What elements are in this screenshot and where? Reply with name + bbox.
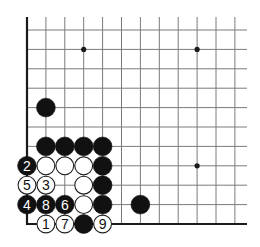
black-stone	[131, 195, 150, 214]
black-stone-icon	[93, 195, 112, 214]
white-stone-icon	[75, 157, 93, 175]
star-point-icon	[81, 47, 86, 52]
black-stone	[93, 137, 112, 156]
black-stone-move-6: 6	[55, 195, 74, 214]
star-point-icon	[195, 47, 200, 52]
white-stone-icon	[75, 196, 93, 214]
black-stone-move-2: 2	[18, 156, 37, 175]
white-stone-move-7: 7	[56, 215, 74, 233]
black-stone	[74, 137, 93, 156]
go-board-diagram: 253486179	[0, 0, 260, 247]
black-stone-icon	[131, 195, 150, 214]
black-stone	[93, 156, 112, 175]
black-stone-icon	[37, 98, 56, 117]
black-stone-move-4: 4	[18, 195, 37, 214]
black-stone-icon	[55, 137, 74, 156]
white-stone-move-3: 3	[37, 176, 55, 194]
move-number-label: 1	[42, 216, 50, 232]
black-stone	[93, 195, 112, 214]
black-stone	[55, 137, 74, 156]
black-stone-icon	[93, 176, 112, 195]
black-stone-icon	[74, 215, 93, 234]
black-stone	[93, 176, 112, 195]
move-number-label: 6	[61, 197, 69, 213]
black-stone	[74, 215, 93, 234]
move-number-label: 4	[23, 197, 31, 213]
black-stone-icon	[37, 137, 56, 156]
white-stone	[56, 157, 74, 175]
move-number-label: 2	[23, 158, 31, 174]
move-number-label: 7	[61, 216, 69, 232]
white-stone	[75, 176, 93, 194]
white-stone	[37, 157, 55, 175]
move-number-label: 5	[23, 177, 31, 193]
white-stone-icon	[37, 157, 55, 175]
white-stone	[75, 157, 93, 175]
white-stone-move-1: 1	[37, 215, 55, 233]
white-stone-move-9: 9	[94, 215, 112, 233]
white-stone-move-5: 5	[18, 176, 36, 194]
black-stone-icon	[74, 137, 93, 156]
black-stone-icon	[93, 137, 112, 156]
white-stone-icon	[56, 157, 74, 175]
black-stone-move-8: 8	[37, 195, 56, 214]
move-number-label: 9	[99, 216, 107, 232]
move-number-label: 8	[42, 197, 50, 213]
star-point-icon	[195, 163, 200, 168]
black-stone-icon	[93, 156, 112, 175]
white-stone-icon	[75, 176, 93, 194]
black-stone	[37, 137, 56, 156]
black-stone	[37, 98, 56, 117]
move-number-label: 3	[42, 177, 50, 193]
white-stone	[75, 196, 93, 214]
